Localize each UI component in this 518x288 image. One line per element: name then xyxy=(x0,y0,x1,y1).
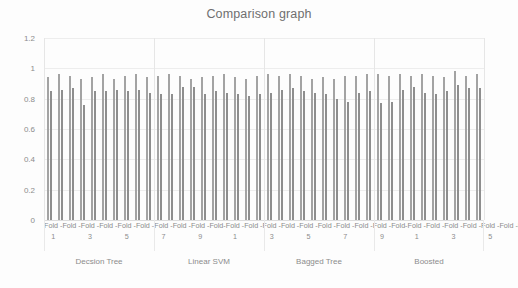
fold-bar-group xyxy=(319,38,330,220)
y-axis-tick-label: 0.2 xyxy=(24,185,35,194)
bar xyxy=(226,93,228,220)
bar xyxy=(314,93,316,220)
bar xyxy=(256,76,258,220)
fold-number: 3 xyxy=(444,231,462,242)
bar xyxy=(468,88,470,220)
fold-bar-group xyxy=(77,38,88,220)
x-axis-fold-label: Fold -9 xyxy=(191,220,209,250)
bar xyxy=(435,94,437,220)
bar xyxy=(127,91,129,220)
fold-number: 1 xyxy=(408,231,426,242)
bar xyxy=(446,91,448,220)
fold-bar-group xyxy=(352,38,363,220)
bar xyxy=(479,88,481,220)
comparison-chart: Comparison graph 1.210.80.60.40.20 Fold … xyxy=(0,0,518,288)
x-axis-group: Fold -1Fold -.Fold -3Fold -.Fold -5Fold … xyxy=(44,220,226,250)
x-axis-fold-label: Fold-. xyxy=(209,220,225,250)
fold-bar-group xyxy=(264,38,275,220)
x-axis-fold-label: Fold -7 xyxy=(154,220,172,250)
x-axis-fold-label: Fold -3 xyxy=(81,220,99,250)
bar xyxy=(388,76,390,220)
bar xyxy=(402,90,404,220)
fold-bar-group xyxy=(187,38,198,220)
fold-word: Fold - xyxy=(281,220,299,231)
group-separator xyxy=(374,38,375,220)
fold-bar-group xyxy=(407,38,418,220)
bar xyxy=(223,74,225,220)
bar xyxy=(215,91,217,220)
x-axis-fold-label: Fold-. xyxy=(391,220,407,250)
fold-word: Fold - xyxy=(444,220,462,231)
fold-number: 9 xyxy=(191,231,209,242)
fold-number: 7 xyxy=(154,231,172,242)
fold-bar-group xyxy=(440,38,451,220)
bar xyxy=(432,76,434,220)
fold-bar-group xyxy=(231,38,242,220)
bar xyxy=(355,76,357,220)
bar xyxy=(267,74,269,220)
bar xyxy=(102,74,104,220)
x-axis-fold-label: Fold -1 xyxy=(408,220,426,250)
bar xyxy=(281,90,283,220)
fold-word: Fold - xyxy=(499,220,517,231)
bar xyxy=(201,77,203,220)
fold-word: Fold - xyxy=(244,220,262,231)
fold-word: Fold - xyxy=(336,220,354,231)
x-axis-fold-label: Fold -7 xyxy=(336,220,354,250)
bar xyxy=(113,79,115,220)
bar xyxy=(58,74,60,220)
bar xyxy=(259,94,261,220)
fold-number: 9 xyxy=(373,231,391,242)
category-label-boosted: Boosted xyxy=(374,251,484,275)
group-separator xyxy=(264,38,265,220)
fold-word: Fold - xyxy=(373,220,391,231)
bar xyxy=(61,90,63,220)
fold-bar-group xyxy=(88,38,99,220)
fold-number: 5 xyxy=(299,231,317,242)
category-label-bagged-tree: Bagged Tree xyxy=(264,251,374,275)
bar xyxy=(237,94,239,220)
fold-bar-group xyxy=(286,38,297,220)
fold-word: Fold - xyxy=(354,220,372,231)
fold-bar-group xyxy=(451,38,462,220)
fold-word: Fold - xyxy=(408,220,426,231)
y-axis: 1.210.80.60.40.20 xyxy=(0,38,40,220)
bar xyxy=(245,79,247,220)
fold-number: 7 xyxy=(336,231,354,242)
x-axis-fold-label: Fold -5 xyxy=(118,220,136,250)
bar xyxy=(325,94,327,220)
fold-number: 5 xyxy=(118,231,136,242)
fold-bar-group xyxy=(209,38,220,220)
fold-bar-group xyxy=(385,38,396,220)
x-axis-group: Fold -1Fold -.Fold -3Fold -.Fold -5Fold … xyxy=(226,220,408,250)
bar xyxy=(311,79,313,220)
x-axis-category-labels: Decsion TreeLinear SVMBagged TreeBoosted xyxy=(44,251,484,275)
bar xyxy=(347,102,349,220)
fold-number: 1 xyxy=(44,231,62,242)
bar xyxy=(157,76,159,220)
bar xyxy=(190,79,192,220)
bar xyxy=(377,74,379,220)
bar xyxy=(248,96,250,220)
bar xyxy=(124,76,126,220)
fold-word: Fold - xyxy=(44,220,62,231)
bar xyxy=(454,71,456,220)
fold-bar-group xyxy=(418,38,429,220)
bar xyxy=(168,74,170,220)
fold-bar-group xyxy=(176,38,187,220)
plot-area xyxy=(44,38,484,220)
bar xyxy=(380,103,382,220)
y-axis-tick-label: 0.6 xyxy=(24,125,35,134)
bar xyxy=(410,76,412,220)
x-axis-fold-label: Fold -. xyxy=(244,220,262,250)
bar xyxy=(443,77,445,220)
bar xyxy=(424,93,426,220)
bar xyxy=(369,91,371,220)
bar xyxy=(193,87,195,220)
bar xyxy=(94,91,96,220)
bar xyxy=(80,79,82,220)
x-axis-group: Fold -1Fold -.Fold -3Fold -.Fold -5Fold … xyxy=(408,220,518,250)
bar xyxy=(421,74,423,220)
bar xyxy=(50,91,52,220)
fold-word: Fold - xyxy=(299,220,317,231)
